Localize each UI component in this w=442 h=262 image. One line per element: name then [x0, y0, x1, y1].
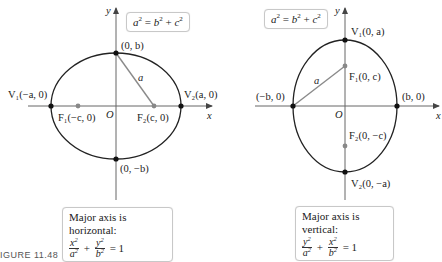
left-origin-label: O	[106, 109, 114, 120]
right-relation-box: a2 = b2 + c2	[264, 9, 328, 29]
right-equals-one: = 1	[343, 241, 357, 254]
left-term2: y2 b2	[95, 238, 105, 259]
right-y-label: y	[334, 5, 340, 16]
right-diagram: y x O V₁(0, a) V₂(0, −a) (−b, 0) (b, 0) …	[255, 5, 441, 200]
left-a-segment	[116, 53, 154, 106]
left-v2-label: V₂(a, 0)	[184, 89, 218, 101]
left-bottom-point-label: (0, −b)	[120, 163, 149, 175]
right-left-point-label: (−b, 0)	[256, 91, 285, 103]
left-equation: x2 a2 + y2 b2 = 1	[69, 238, 166, 259]
left-covertex-top	[113, 50, 118, 55]
right-f2-label: F₂(0, −c)	[349, 130, 387, 142]
left-f1-label: F₁(−c, 0)	[58, 112, 96, 124]
left-focus-f2	[152, 104, 157, 109]
right-equation-title: Major axis is vertical:	[302, 210, 387, 236]
left-f2-label: F₂(c, 0)	[137, 112, 169, 124]
left-plus: +	[84, 242, 90, 255]
right-relation-eq: =	[283, 13, 289, 25]
right-relation-plus: +	[303, 13, 309, 25]
left-segment-label: a	[138, 72, 143, 83]
right-v1-label: V₁(0, a)	[351, 26, 385, 38]
left-term1: x2 a2	[69, 238, 79, 259]
left-diagram: y x O (0, b) (0, −b) V₁(−a, 0) V₂(a, 0) …	[8, 5, 218, 200]
right-x-label: x	[435, 110, 441, 121]
right-term2: x2 b2	[328, 237, 338, 258]
right-covertex-right	[394, 103, 399, 108]
right-equation-box: Major axis is vertical: y2 a2 + x2 b2 = …	[295, 206, 394, 261]
left-equation-box: Major axis is horizontal: x2 a2 + y2 b2 …	[62, 207, 173, 262]
right-focus-f1	[343, 64, 348, 69]
right-equation: y2 a2 + x2 b2 = 1	[302, 237, 387, 258]
right-v2-label: V₂(0, −a)	[351, 178, 391, 190]
left-vertex-v2	[178, 103, 183, 108]
left-x-label: x	[206, 110, 212, 121]
right-f1-label: F₁(0, c)	[349, 71, 381, 83]
left-focus-f1	[76, 104, 81, 109]
right-vertex-v1	[342, 37, 347, 42]
right-covertex-left	[290, 103, 295, 108]
left-equation-title: Major axis is horizontal:	[69, 211, 166, 237]
left-y-label: y	[105, 5, 111, 16]
left-top-point-label: (0, b)	[121, 40, 144, 52]
left-relation-plus: +	[165, 16, 171, 28]
right-segment-label: a	[314, 75, 319, 86]
right-origin-label: O	[335, 109, 343, 120]
left-vertex-v1	[48, 103, 53, 108]
left-covertex-bottom	[113, 156, 118, 161]
left-relation-eq: =	[145, 16, 151, 28]
left-equals-one: = 1	[110, 242, 124, 255]
left-relation-box: a2 = b2 + c2	[126, 12, 190, 32]
right-right-point-label: (b, 0)	[402, 91, 425, 103]
right-focus-f2	[343, 144, 348, 149]
right-term1: y2 a2	[302, 237, 312, 258]
right-plus: +	[317, 241, 323, 254]
left-v1-label: V₁(−a, 0)	[8, 89, 48, 101]
figure-caption: FIGURE 11.48	[0, 250, 58, 260]
right-vertex-v2	[342, 169, 347, 174]
